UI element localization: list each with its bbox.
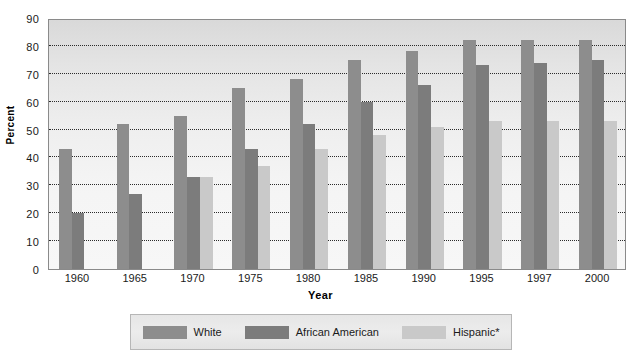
bar bbox=[232, 88, 245, 269]
bar bbox=[174, 116, 187, 269]
bar bbox=[592, 60, 605, 269]
y-axis-tick: 50 bbox=[26, 125, 39, 137]
bar-chart: Percent 0102030405060708090 196019651970… bbox=[0, 0, 641, 362]
bar-group bbox=[117, 20, 155, 269]
bar bbox=[534, 63, 547, 269]
bar-group bbox=[463, 20, 501, 269]
x-axis-tick: 1997 bbox=[527, 272, 551, 284]
x-axis-tick: 1980 bbox=[296, 272, 320, 284]
bar bbox=[361, 102, 374, 269]
y-axis-tick: 0 bbox=[33, 264, 39, 276]
x-axis-tick: 1995 bbox=[469, 272, 493, 284]
y-axis-tick: 10 bbox=[26, 236, 39, 248]
bar-group bbox=[579, 20, 617, 269]
bar-group bbox=[59, 20, 97, 269]
x-axis-tick: 2000 bbox=[585, 272, 609, 284]
bar-group bbox=[348, 20, 386, 269]
bar bbox=[489, 121, 502, 269]
plot-area bbox=[48, 19, 626, 270]
bar bbox=[406, 51, 419, 269]
y-axis-tick: 20 bbox=[26, 208, 39, 220]
bar bbox=[418, 85, 431, 269]
bar bbox=[72, 213, 85, 269]
bar-group bbox=[232, 20, 270, 269]
bar bbox=[604, 121, 617, 269]
legend-label: White bbox=[194, 326, 222, 338]
bar-group bbox=[521, 20, 559, 269]
bar bbox=[187, 177, 200, 269]
bar bbox=[200, 177, 213, 269]
legend-item: White bbox=[143, 326, 222, 339]
bar bbox=[245, 149, 258, 269]
chart-legend: WhiteAfrican AmericanHispanic* bbox=[130, 314, 512, 350]
legend-label: African American bbox=[296, 326, 379, 338]
y-axis-tick: 60 bbox=[26, 97, 39, 109]
bar-group bbox=[174, 20, 212, 269]
legend-item: African American bbox=[245, 326, 379, 339]
x-axis-tick: 1985 bbox=[354, 272, 378, 284]
x-axis-title: Year bbox=[0, 289, 641, 301]
x-axis-tick-labels: 1960196519701975198019851990199519972000 bbox=[48, 272, 626, 288]
bar bbox=[547, 121, 560, 269]
legend-swatch-icon bbox=[402, 326, 446, 339]
bar-group bbox=[290, 20, 328, 269]
bar bbox=[303, 124, 316, 269]
bar bbox=[431, 127, 444, 269]
bar bbox=[258, 166, 271, 269]
legend-item: Hispanic* bbox=[402, 326, 499, 339]
bar bbox=[373, 135, 386, 269]
legend-swatch-icon bbox=[245, 326, 289, 339]
y-axis-tick: 90 bbox=[26, 13, 39, 25]
bar bbox=[521, 40, 534, 269]
bar bbox=[59, 149, 72, 269]
bar bbox=[463, 40, 476, 269]
x-axis-tick: 1975 bbox=[238, 272, 262, 284]
bar bbox=[117, 124, 130, 269]
bar bbox=[315, 149, 328, 269]
y-axis-tick: 40 bbox=[26, 152, 39, 164]
y-axis-tick: 80 bbox=[26, 41, 39, 53]
legend-label: Hispanic* bbox=[453, 326, 499, 338]
x-axis-tick: 1970 bbox=[180, 272, 204, 284]
y-axis-tick: 70 bbox=[26, 69, 39, 81]
x-axis-tick: 1990 bbox=[411, 272, 435, 284]
bar bbox=[348, 60, 361, 269]
x-axis-tick: 1965 bbox=[122, 272, 146, 284]
x-axis-tick: 1960 bbox=[65, 272, 89, 284]
bar bbox=[129, 194, 142, 269]
bar bbox=[579, 40, 592, 269]
bar bbox=[476, 65, 489, 269]
legend-swatch-icon bbox=[143, 326, 187, 339]
bar bbox=[290, 79, 303, 269]
y-axis-tick-labels: 0102030405060708090 bbox=[0, 19, 44, 270]
bar-group bbox=[406, 20, 444, 269]
y-axis-tick: 30 bbox=[26, 180, 39, 192]
